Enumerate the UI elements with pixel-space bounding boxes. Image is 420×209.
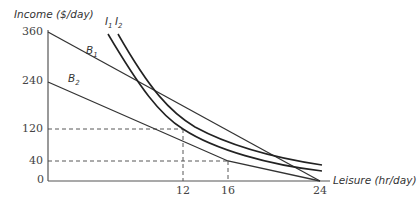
y-tick-240: 240 [22,74,43,87]
budget-line-b2 [48,82,320,181]
label-i1: I1 [105,15,113,30]
y-tick-0: 0 [37,173,44,186]
y-tick-360: 360 [22,25,43,38]
x-tick-16: 16 [221,184,235,197]
y-axis-label: Income ($/day) [14,8,94,20]
y-tick-120: 120 [22,122,43,135]
label-i2: I2 [115,15,123,30]
y-tick-40: 40 [29,154,43,167]
label-b1: B1 [86,44,98,59]
label-b2: B2 [68,72,80,87]
reference-lines [48,129,228,181]
x-axis-label: Leisure (hr/day) [333,174,416,186]
indifference-curve-i1 [108,34,322,171]
x-tick-24: 24 [313,184,327,197]
indifference-curve-i2 [118,34,322,165]
x-tick-12: 12 [176,184,190,197]
